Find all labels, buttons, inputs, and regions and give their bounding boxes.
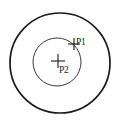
- point-p1-label: P1: [76, 37, 86, 47]
- diagram-canvas: P1 P2: [0, 0, 123, 126]
- geometry-diagram: P1 P2: [0, 0, 123, 126]
- point-p2-label: P2: [59, 65, 69, 75]
- outer-circle: [10, 13, 110, 113]
